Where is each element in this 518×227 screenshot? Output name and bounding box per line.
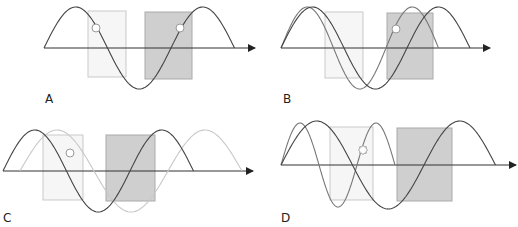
sample-point-circle-icon xyxy=(92,24,100,32)
sample-point-circle-icon xyxy=(176,24,184,32)
panel-label: D xyxy=(281,211,290,225)
sample-point-circle-icon xyxy=(66,149,74,157)
sample-point-circle-icon xyxy=(392,25,400,33)
light-sample-window xyxy=(88,11,126,77)
panel-d: D xyxy=(281,121,516,225)
panel-c: C xyxy=(3,130,253,225)
panel-b: B xyxy=(281,7,490,106)
panel-label: A xyxy=(45,92,54,106)
panel-label: B xyxy=(283,92,291,106)
panel-a: A xyxy=(44,7,255,106)
sine-wave-sampling-diagram: A B C D xyxy=(0,0,518,227)
dark-sample-window xyxy=(106,135,155,201)
gear-marker-icon xyxy=(358,145,367,154)
panel-label: C xyxy=(3,211,11,225)
dark-sample-window xyxy=(387,13,433,79)
